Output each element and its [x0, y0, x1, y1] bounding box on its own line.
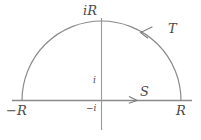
label-upper-imaginary-iR: iR [83, 4, 97, 17]
label-unit-imaginary-i: i [93, 76, 96, 85]
label-left-real-endpoint: −R [6, 104, 27, 117]
label-segment-path-S: S [140, 85, 149, 98]
contour-diagram-figure: iR T S i −i −R R [0, 0, 201, 140]
label-negative-unit-imaginary: −i [86, 104, 96, 113]
label-right-real-endpoint: R [176, 104, 186, 117]
label-arc-path-T: T [168, 22, 177, 35]
